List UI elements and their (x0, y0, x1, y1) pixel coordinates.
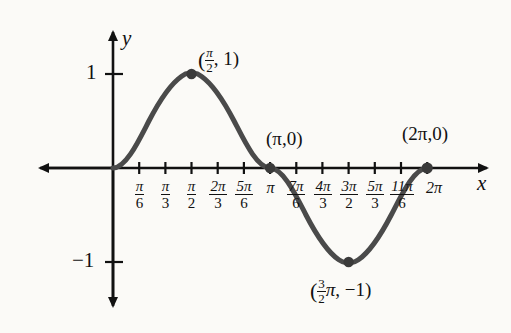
x-tick-num: 11π (390, 178, 413, 195)
x-tick-den: 6 (235, 195, 252, 212)
x-tick-num: 2π (209, 178, 226, 195)
y-tick-label-1: 1 (86, 62, 97, 83)
x-tick-den: 3 (161, 195, 171, 212)
x-tick-label-pi-over-2: π2 (183, 178, 200, 212)
x-tick-den: 6 (135, 195, 145, 212)
annot-den: 2 (317, 292, 326, 307)
annot-rest: , −1) (335, 279, 371, 300)
x-tick-label-4pi-over-3: 4π3 (311, 178, 335, 212)
annotation-zero-end: (2π,0) (402, 124, 448, 143)
point-zero-end (422, 162, 433, 173)
annotation-max: (π2, 1) (198, 46, 239, 76)
annot-open-paren: ( (310, 278, 317, 303)
graph-svg (0, 0, 511, 333)
x-tick-den: 6 (287, 195, 304, 212)
x-tick-num: 4π (314, 178, 331, 195)
x-tick-den: 2 (187, 195, 197, 212)
x-tick-label-11pi-over-6: 11π6 (387, 178, 417, 212)
point-max (186, 69, 196, 79)
x-tick-label-pi: π (262, 180, 279, 196)
point-min (343, 257, 353, 267)
annot-rest: , 1) (214, 48, 239, 69)
annot-open-paren: ( (198, 47, 205, 72)
x-tick-num: π (161, 178, 171, 195)
x-axis-label: x (477, 173, 486, 194)
x-tick-label-pi-over-3: π3 (157, 178, 174, 212)
x-tick-label-2pi: 2π (420, 180, 448, 196)
annot-num: π (205, 46, 214, 61)
x-tick-den: 3 (209, 195, 226, 212)
x-tick-label-5pi-over-6: 5π6 (232, 178, 256, 212)
x-tick-label-2pi-over-3: 2π3 (206, 178, 230, 212)
annot-pi: π (326, 279, 336, 300)
x-tick-den: 2 (340, 195, 357, 212)
annot-den: 2 (205, 61, 214, 76)
x-tick-num: 3π (340, 178, 357, 195)
annot-num: 3 (317, 277, 326, 292)
x-tick-num: π (187, 178, 197, 195)
annotation-zero-mid: (π,0) (266, 129, 303, 148)
x-tick-den: 3 (366, 195, 383, 212)
y-tick-label-neg1: −1 (72, 250, 94, 271)
annotation-min: (32π, −1) (310, 277, 371, 307)
x-tick-label-7pi-over-6: 7π6 (284, 178, 308, 212)
y-axis-label: y (122, 28, 131, 49)
x-tick-label-5pi-over-3: 5π3 (363, 178, 387, 212)
x-tick-num: 7π (287, 178, 304, 195)
x-tick-den: 3 (314, 195, 331, 212)
x-tick-num: π (135, 178, 145, 195)
figure-canvas: y x 1 −1 π6 π3 π2 2π3 5π6 π 7π6 4π3 3π2 … (0, 0, 511, 333)
x-tick-label-3pi-over-2: 3π2 (337, 178, 361, 212)
point-zero-mid (265, 163, 275, 173)
x-tick-num: 5π (366, 178, 383, 195)
x-tick-label-pi-over-6: π6 (131, 178, 148, 212)
x-tick-den: 6 (390, 195, 413, 212)
x-tick-num: 5π (235, 178, 252, 195)
